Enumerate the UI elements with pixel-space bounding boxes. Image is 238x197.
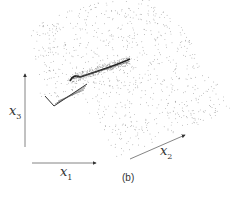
x1-subscript: 1 xyxy=(67,173,72,182)
x3-subscript: 3 xyxy=(16,112,21,121)
x2-axis-line xyxy=(130,135,185,159)
x1-axis-label: x1 xyxy=(60,164,72,182)
point-cloud-surface xyxy=(0,0,238,197)
x2-subscript: 2 xyxy=(167,152,172,161)
x3-axis-label: x3 xyxy=(9,103,21,121)
figure-caption: (b) xyxy=(122,172,134,183)
figure-panel-b: x3 x1 x2 (b) xyxy=(0,0,238,197)
x2-axis-label: x2 xyxy=(160,143,172,161)
surface-points xyxy=(31,0,230,157)
